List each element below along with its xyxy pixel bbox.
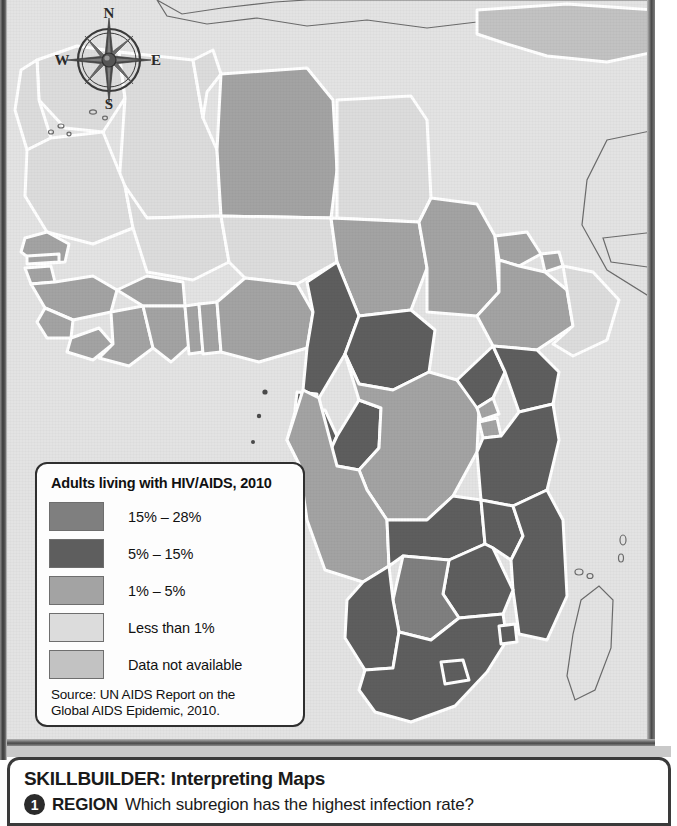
legend-source: Source: UN AIDS Report on the Global AID… xyxy=(51,687,291,719)
region-gambia xyxy=(27,254,59,264)
legend-label-1-5: 1% – 5% xyxy=(128,583,185,599)
legend-swatch-15-28 xyxy=(49,502,104,531)
question-category-label: REGION xyxy=(52,795,118,815)
region-swaziland xyxy=(499,624,517,644)
legend-label-15-28: 15% – 28% xyxy=(128,509,201,525)
legend-source-line-1: Source: UN AIDS Report on the xyxy=(51,687,291,703)
legend-swatch-no-data xyxy=(49,650,104,679)
compass-label-north: N xyxy=(104,6,115,21)
legend-item-1-5: 1% – 5% xyxy=(49,572,291,609)
region-lesotho xyxy=(441,660,469,684)
legend-label-5-15: 5% – 15% xyxy=(128,546,193,562)
map-right-edge xyxy=(647,0,655,746)
textbook-page: .c15 { fill:#7f7f7f; } .c5 { fill:#5e5e5… xyxy=(0,0,677,826)
skillbuilder-panel: SKILLBUILDER: Interpreting Maps 1 REGION… xyxy=(7,757,671,826)
legend-source-line-2: Global AIDS Epidemic, 2010. xyxy=(51,703,291,719)
legend-title: Adults living with HIV/AIDS, 2010 xyxy=(51,475,291,491)
region-nigeria xyxy=(217,278,313,362)
compass-label-south: S xyxy=(105,96,113,110)
compass-label-east: E xyxy=(151,52,161,68)
africa-hiv-map: .c15 { fill:#7f7f7f; } .c5 { fill:#5e5e5… xyxy=(7,0,655,746)
legend-item-no-data: Data not available xyxy=(49,646,291,683)
legend-item-15-28: 15% – 28% xyxy=(49,498,291,535)
legend-swatch-less-than-1 xyxy=(49,613,104,642)
question-number-badge: 1 xyxy=(24,794,45,815)
region-libya xyxy=(217,68,337,218)
skillbuilder-question-1: 1 REGION Which subregion has the highest… xyxy=(24,794,654,815)
legend-label-less-than-1: Less than 1% xyxy=(128,620,215,636)
map-legend: Adults living with HIV/AIDS, 2010 15% – … xyxy=(35,462,305,727)
compass-label-west: W xyxy=(55,52,70,68)
legend-item-5-15: 5% – 15% xyxy=(49,535,291,572)
region-egypt xyxy=(337,96,431,222)
skillbuilder-title: SKILLBUILDER: Interpreting Maps xyxy=(24,768,654,790)
compass-rose-icon: N S E W xyxy=(55,6,163,110)
legend-swatch-5-15 xyxy=(49,539,104,568)
legend-item-less-than-1: Less than 1% xyxy=(49,609,291,646)
page-spine-shadow xyxy=(0,0,7,760)
legend-label-no-data: Data not available xyxy=(128,657,242,673)
legend-swatch-1-5 xyxy=(49,576,104,605)
region-mozambique xyxy=(511,490,567,640)
map-bottom-edge xyxy=(7,739,655,746)
panel-gap-strip xyxy=(7,746,671,757)
question-text: Which subregion has the highest infectio… xyxy=(125,795,474,815)
